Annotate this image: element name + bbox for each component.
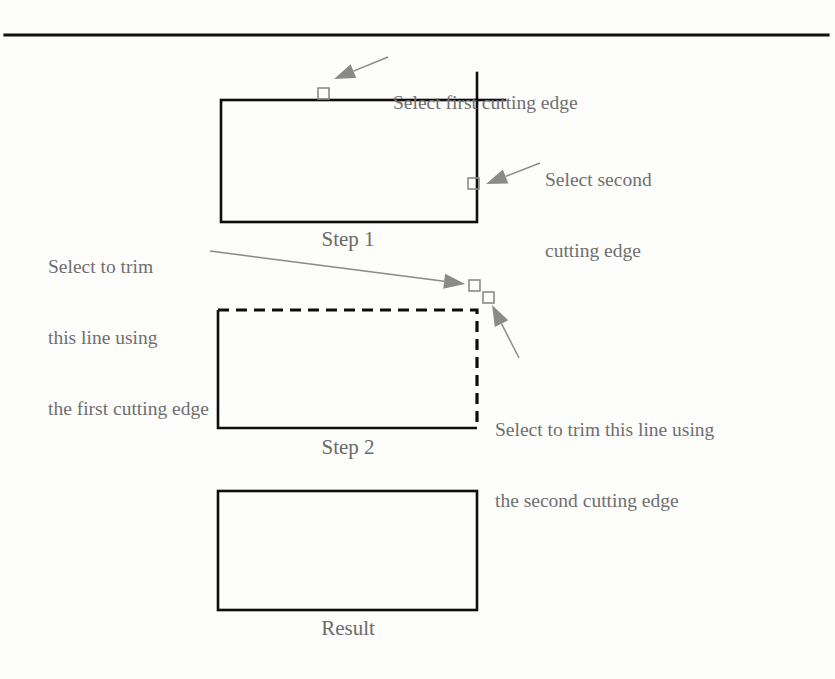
callout-line: Select first cutting edge [393, 91, 578, 115]
callout-trim-second-leader [502, 324, 519, 358]
callout-trim-first-arrowhead-icon [443, 274, 465, 289]
callout-second-cutting-edge-arrowhead-icon [486, 169, 508, 184]
callout-trim-second-arrowhead-icon [492, 305, 508, 327]
caption-step2: Step 2 [321, 435, 374, 461]
step2-geometry [218, 310, 477, 428]
callout-second-cutting-edge-leader [506, 163, 540, 176]
callout-second-cutting-edge: Select second cutting edge [545, 120, 652, 310]
result-geometry [218, 491, 477, 610]
caption-result: Result [321, 616, 375, 642]
step2-dashed-edges [218, 310, 477, 428]
callout-line: cutting edge [545, 239, 652, 263]
pick-handle-trim-first[interactable] [469, 280, 480, 291]
diagram-page: Step 1 Step 2 Result Select first cuttin… [0, 0, 835, 679]
pick-handle-first-cutting-edge[interactable] [318, 88, 329, 99]
callout-first-cutting-edge-arrowhead-icon [334, 64, 356, 79]
callout-line: Select second [545, 168, 652, 192]
result-rectangle [218, 491, 477, 610]
callout-line: Select to trim [48, 255, 209, 279]
callout-trim-first: Select to trim this line using the first… [48, 207, 209, 469]
callout-line: Select to trim this line using [495, 418, 714, 442]
pick-handle-trim-second[interactable] [483, 292, 494, 303]
callout-line: the second cutting edge [495, 489, 714, 513]
callout-first-cutting-edge-leader [353, 57, 388, 71]
callout-line: the first cutting edge [48, 397, 209, 421]
callout-trim-second: Select to trim this line using the secon… [495, 370, 714, 560]
callout-line: this line using [48, 326, 209, 350]
step2-solid-edges [218, 310, 477, 428]
caption-step1: Step 1 [321, 227, 374, 253]
callout-trim-first-leader [210, 251, 444, 281]
